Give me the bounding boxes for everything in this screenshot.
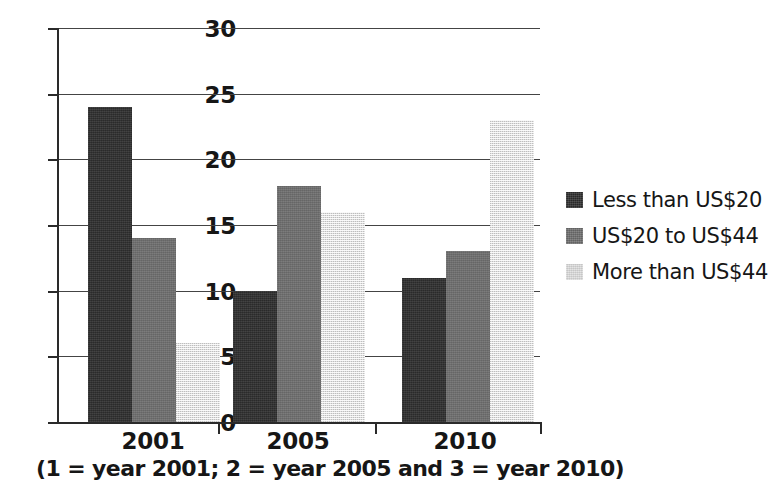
gridline-30 <box>57 28 540 29</box>
x-axis-label-2010: 2010 <box>405 428 525 454</box>
bar-2001-us20-to-us44 <box>132 238 176 422</box>
bar-2001-more-than-us44 <box>176 343 220 422</box>
grouped-bar-chart: 30 25 20 15 10 5 0 <box>0 0 782 489</box>
legend-item-less-than-us20: Less than US$20 <box>566 182 768 218</box>
bar-2005-less-than-us20 <box>233 291 277 422</box>
y-tick-25 <box>48 94 59 96</box>
x-axis-separator-3 <box>540 422 542 434</box>
chart-caption: (1 = year 2001; 2 = year 2005 and 3 = ye… <box>36 456 556 481</box>
chart-legend: Less than US$20 US$20 to US$44 More than… <box>566 182 768 290</box>
gridline-25 <box>57 94 540 95</box>
legend-swatch-icon-light <box>566 264 583 280</box>
y-tick-5 <box>48 356 59 358</box>
x-axis-separator-1 <box>218 422 220 434</box>
bar-2010-less-than-us20 <box>402 278 446 422</box>
bar-2010-us20-to-us44 <box>446 251 490 422</box>
x-axis-line <box>57 422 540 424</box>
y-tick-20 <box>48 159 59 161</box>
bar-2005-us20-to-us44 <box>277 186 321 422</box>
x-axis-label-2005: 2005 <box>238 428 358 454</box>
y-tick-0 <box>48 422 59 424</box>
x-axis-label-2001: 2001 <box>93 428 213 454</box>
legend-label-less-than-us20: Less than US$20 <box>592 188 762 212</box>
legend-label-more-than-us44: More than US$44 <box>592 260 768 284</box>
bar-2005-more-than-us44 <box>321 212 365 422</box>
legend-swatch-icon-dark <box>566 192 583 208</box>
legend-label-us20-to-us44: US$20 to US$44 <box>592 224 758 248</box>
x-axis-separator-2 <box>375 422 377 434</box>
plot-area <box>57 28 540 422</box>
bar-2010-more-than-us44 <box>490 120 534 422</box>
y-tick-30 <box>48 28 59 30</box>
legend-item-more-than-us44: More than US$44 <box>566 254 768 290</box>
bar-2001-less-than-us20 <box>88 107 132 422</box>
legend-item-us20-to-us44: US$20 to US$44 <box>566 218 768 254</box>
y-tick-10 <box>48 291 59 293</box>
y-tick-15 <box>48 225 59 227</box>
legend-swatch-icon-medium <box>566 228 583 244</box>
